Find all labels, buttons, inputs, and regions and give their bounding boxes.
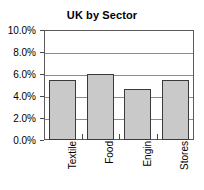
x-tick-label: Engin bbox=[142, 141, 153, 167]
y-axis: 0.0%2.0%4.0%6.0%8.0%10.0% bbox=[0, 30, 40, 140]
y-tick-label: 2.0% bbox=[13, 113, 36, 124]
bar bbox=[87, 74, 114, 140]
bars-layer bbox=[44, 30, 194, 140]
x-tick-label: Stores bbox=[179, 141, 190, 170]
bar bbox=[49, 80, 76, 141]
y-tick-label: 4.0% bbox=[13, 91, 36, 102]
x-tick-label: Textile bbox=[67, 141, 78, 169]
x-tick-mark bbox=[119, 134, 120, 140]
y-tick-label: 10.0% bbox=[8, 25, 36, 36]
y-tick-label: 8.0% bbox=[13, 47, 36, 58]
x-tick-mark bbox=[157, 134, 158, 140]
x-tick-label: Food bbox=[104, 141, 115, 164]
y-tick-label: 0.0% bbox=[13, 135, 36, 146]
bar bbox=[162, 80, 189, 141]
x-tick-mark bbox=[82, 134, 83, 140]
bar bbox=[124, 89, 151, 140]
x-axis: TextileFoodEnginStores bbox=[44, 141, 194, 190]
bar-chart: UK by Sector 0.0%2.0%4.0%6.0%8.0%10.0% T… bbox=[0, 0, 204, 190]
y-tick-label: 6.0% bbox=[13, 69, 36, 80]
chart-title: UK by Sector bbox=[0, 9, 204, 21]
